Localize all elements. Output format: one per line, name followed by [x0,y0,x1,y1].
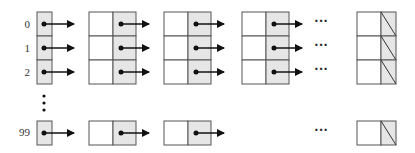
node-data-cell [89,36,113,60]
index-label-2: 2 [25,66,31,78]
last-node-data-cell [357,12,381,36]
last-node-data-cell [357,36,381,60]
index-label-99: 99 [19,126,31,138]
last-node-data-cell [357,121,381,145]
horizontal-ellipsis: ··· [314,38,328,53]
node-data-cell [89,121,113,145]
node-data-cell [242,60,266,84]
node-data-cell [164,121,188,145]
node-data-cell [242,12,266,36]
hash-table-diagram: ············ 0 1 2 99 [0,0,415,153]
index-label-0: 0 [25,18,31,30]
node-data-cell [164,36,188,60]
node-data-cell [89,12,113,36]
last-node-data-cell [357,60,381,84]
index-label-1: 1 [25,42,31,54]
horizontal-ellipsis: ··· [314,123,328,138]
node-data-cell [242,36,266,60]
horizontal-ellipsis: ··· [314,14,328,29]
vertical-ellipsis-dot [42,108,45,111]
vertical-ellipsis-dot [42,94,45,97]
vertical-ellipsis-dot [42,101,45,104]
node-data-cell [89,60,113,84]
horizontal-ellipsis: ··· [314,62,328,77]
node-data-cell [164,60,188,84]
node-data-cell [164,12,188,36]
